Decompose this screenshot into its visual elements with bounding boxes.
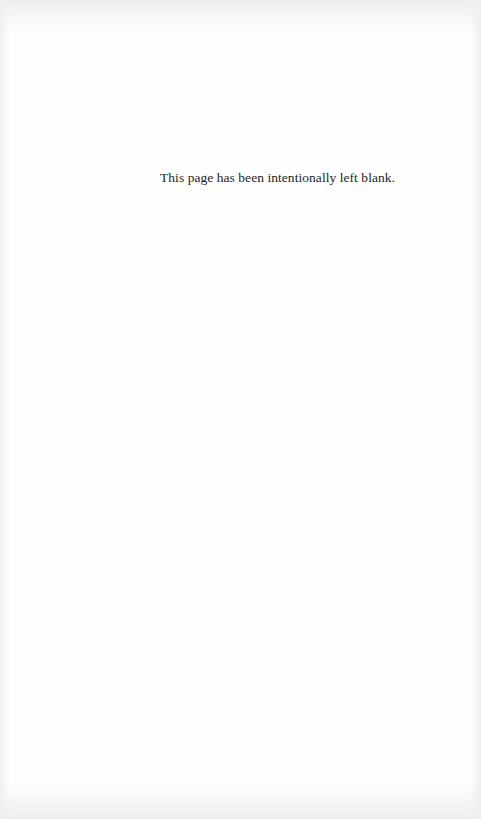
scan-shadow-right [469,0,481,819]
blank-page-notice: This page has been intentionally left bl… [160,170,395,186]
scan-shadow-bottom [0,785,481,819]
scan-shadow-top [0,0,481,34]
scan-shadow-left [0,0,10,819]
blank-page: This page has been intentionally left bl… [0,0,481,819]
